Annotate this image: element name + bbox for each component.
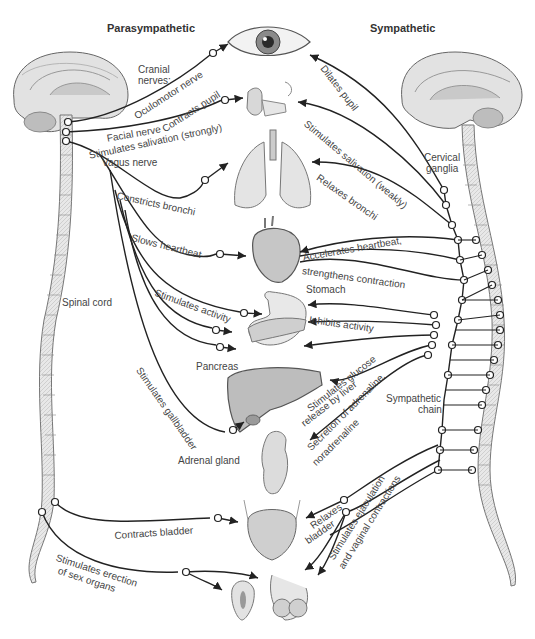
sympathetic-chain-label-line2: chain (418, 404, 442, 415)
vagus-nerve-label: Vagus nerve (102, 157, 157, 168)
heart-icon (253, 216, 300, 282)
left-spinal-cord-icon (29, 115, 72, 583)
spinal-cord-label: Spinal cord (62, 297, 112, 308)
autonomic-nervous-system-diagram (0, 0, 535, 639)
cervical-ganglia-label-line2: ganglia (426, 163, 458, 174)
eye-icon (228, 27, 310, 56)
stomach-label: Stomach (306, 284, 345, 295)
cranial-nerves-label-line2: nerves: (138, 75, 171, 86)
sex-organs-icon (232, 575, 308, 620)
cranial-nerves-label-line1: Cranial (138, 64, 170, 75)
right-brain-icon (402, 52, 522, 128)
sympathetic-chain-label-line1: Sympathetic (386, 393, 441, 404)
salivary-glands-icon (247, 82, 292, 116)
cervical-ganglia-label-line1: Cervical (424, 152, 460, 163)
adrenal-gland-label: Adrenal gland (178, 455, 240, 466)
right-spinal-cord-icon (462, 125, 516, 586)
parasympathetic-header: Parasympathetic (107, 22, 195, 34)
sympathetic-header: Sympathetic (370, 22, 435, 34)
adrenal-kidney-icon (262, 431, 288, 493)
lungs-icon (235, 130, 311, 208)
bladder-icon (244, 500, 300, 560)
pancreas-label: Pancreas (196, 361, 238, 372)
